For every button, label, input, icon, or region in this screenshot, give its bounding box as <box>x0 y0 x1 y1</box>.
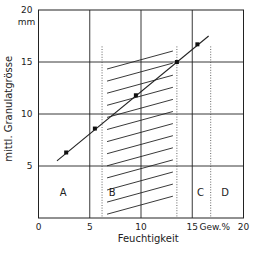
x-tick-label: 10 <box>135 222 147 232</box>
region-label: B <box>109 187 116 198</box>
hatch-line <box>107 51 173 69</box>
hatched-region <box>107 51 173 214</box>
data-point <box>134 93 138 97</box>
x-axis-label: Feuchtigkeit <box>118 233 179 244</box>
region-label: C <box>197 187 204 198</box>
data-point <box>64 150 68 154</box>
region-label: D <box>221 187 229 198</box>
hatch-line <box>107 172 173 190</box>
x-tick-label: 5 <box>87 222 93 232</box>
y-tick-label: 10 <box>21 109 33 119</box>
hatch-line <box>107 136 173 154</box>
hatch-line <box>107 148 173 166</box>
x-tick-label: 0 <box>36 222 42 232</box>
tick-labels: 051015205101520 <box>21 5 249 232</box>
grid <box>39 10 244 218</box>
hatch-line <box>107 75 173 93</box>
y-tick-label: 15 <box>21 57 32 67</box>
data-point <box>195 42 199 46</box>
series-line <box>57 36 209 161</box>
hatch-line <box>107 63 173 81</box>
x-unit-label: Gew.% <box>200 222 231 232</box>
hatch-line <box>107 124 173 142</box>
region-labels: ABCD <box>60 187 230 198</box>
hatch-line <box>107 87 173 105</box>
x-tick-label: 20 <box>238 222 250 232</box>
region-boundaries <box>102 46 211 218</box>
y-tick-label: 5 <box>27 161 33 171</box>
data-point <box>175 60 179 64</box>
series <box>57 36 209 161</box>
x-tick-label: 15 <box>187 222 198 232</box>
y-axis-label: mittl. Granulatgrösse <box>3 56 14 162</box>
y-unit-label: mm <box>18 17 36 27</box>
data-point <box>93 127 97 131</box>
y-tick-label: 20 <box>21 5 33 15</box>
hatch-line <box>107 196 173 214</box>
region-label: A <box>60 187 67 198</box>
hatch-line <box>107 99 173 117</box>
chart: 051015205101520 ABCD mm Gew.% Feuchtigke… <box>0 0 256 253</box>
hatch-line <box>107 160 173 178</box>
hatch-line <box>107 184 173 202</box>
